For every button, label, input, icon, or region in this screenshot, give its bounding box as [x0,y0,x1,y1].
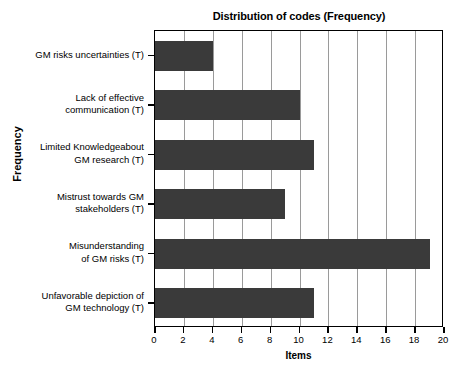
x-axis-tick-label: 16 [372,334,398,345]
y-axis-tick-label-line: GM research (T) [0,154,144,167]
y-axis-tick-label-line: stakeholders (T) [0,203,144,216]
bar-chart-figure: Distribution of codes (Frequency) Freque… [0,0,466,370]
bars-layer [155,31,442,326]
bar-band [155,31,442,81]
x-axis-tick-label: 14 [343,334,369,345]
y-axis-tick-label-line: GM risks uncertainties (T) [0,49,144,62]
bar[interactable] [155,41,213,71]
y-axis-tick-label-line: Limited Knowledgeabout [0,141,144,154]
x-axis-tick-label: 2 [170,334,196,345]
bar[interactable] [155,239,430,269]
y-axis-tick-label: Unfavorable depiction ofGM technology (T… [0,290,144,315]
y-axis-tick-label-line: of GM risks (T) [0,253,144,266]
y-axis-tick-label: GM risks uncertainties (T) [0,49,144,62]
bar[interactable] [155,189,285,219]
y-axis-tick-label-line: Misunderstanding [0,240,144,253]
chart-title: Distribution of codes (Frequency) [154,10,444,22]
bar[interactable] [155,140,314,170]
bar-band [155,180,442,230]
x-axis-ticks: 02468101214161820 [154,327,443,349]
y-axis-tick-label: Mistrust towards GMstakeholders (T) [0,191,144,216]
x-axis-tick-label: 10 [286,334,312,345]
y-axis-tick-labels: GM risks uncertainties (T)Lack of effect… [0,30,150,327]
y-axis-tick-label-line: communication (T) [0,104,144,117]
x-axis-tick-mark [327,327,329,333]
x-axis-tick-mark [270,327,272,333]
x-axis-tick-mark [385,327,387,333]
bar[interactable] [155,288,314,318]
x-axis-tick-label: 20 [430,334,456,345]
x-axis-tick-label: 12 [314,334,340,345]
bar[interactable] [155,90,300,120]
x-axis-tick-mark [299,327,301,333]
y-axis-tick-label: Misunderstandingof GM risks (T) [0,240,144,265]
y-axis-tick-label-line: Lack of effective [0,92,144,105]
x-axis-tick-mark [241,327,243,333]
bar-band [155,229,442,279]
x-axis-tick-label: 18 [401,334,427,345]
bar-band [155,279,442,329]
y-axis-tick-label: Limited KnowledgeaboutGM research (T) [0,141,144,166]
y-axis-tick-label-line: Mistrust towards GM [0,191,144,204]
x-axis-tick-mark [356,327,358,333]
plot-area [154,30,443,327]
y-axis-tick-label-line: Unfavorable depiction of [0,290,144,303]
x-axis-title: Items [154,350,443,361]
y-axis-tick-label: Lack of effectivecommunication (T) [0,92,144,117]
x-axis-tick-label: 4 [199,334,225,345]
x-axis-tick-mark [443,327,445,333]
x-axis-tick-mark [212,327,214,333]
x-axis-tick-mark [183,327,185,333]
bar-band [155,81,442,131]
bar-band [155,130,442,180]
x-axis-tick-mark [414,327,416,333]
x-axis-tick-mark [154,327,156,333]
x-axis-tick-label: 6 [228,334,254,345]
x-axis-tick-label: 8 [257,334,283,345]
y-axis-tick-label-line: GM technology (T) [0,302,144,315]
x-axis-tick-label: 0 [141,334,167,345]
